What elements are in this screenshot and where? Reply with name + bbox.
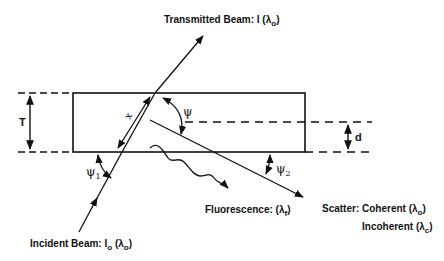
psi2-angle-arc: [266, 155, 270, 174]
beam-in-slab: [122, 93, 155, 152]
incident-beam-label: Incident Beam: Io (λo): [30, 238, 132, 254]
scatter-beam: [150, 120, 303, 197]
psi2-angle-label: ψ2: [276, 163, 291, 180]
psi-angle-label: ψ: [183, 106, 192, 118]
thickness-label: T: [19, 116, 26, 128]
incident-beam: [79, 198, 97, 232]
scatter-coherent-label: Scatter: Coherent (λo): [322, 203, 426, 219]
fluorescence-label: Fluorescence: (λf): [205, 204, 291, 220]
scatter-incoherent-label: Incoherent (λc): [362, 221, 433, 237]
path-length-arrow: [118, 97, 150, 148]
transmitted-beam: [155, 36, 203, 93]
psi1-angle-label: ψ1: [86, 166, 101, 183]
transmitted-beam-label: Transmitted Beam: I (λo): [164, 14, 280, 30]
depth-label: d: [355, 131, 362, 143]
